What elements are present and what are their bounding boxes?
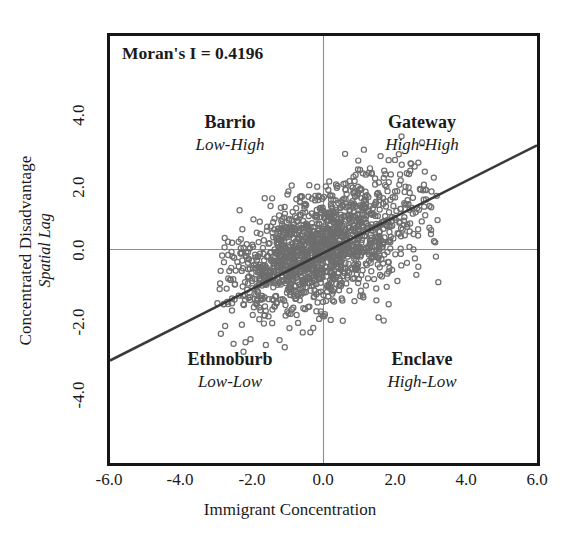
- quadrant-label-barrio: Barrio Low-High: [140, 111, 320, 155]
- quadrant-name-enclave: Enclave: [332, 348, 512, 371]
- quadrant-name-barrio: Barrio: [140, 111, 320, 134]
- y-tick-label-2: 2.0: [56, 177, 102, 197]
- scatter-canvas: [110, 36, 537, 463]
- x-tick-label-4: 4.0: [436, 470, 496, 490]
- quadrant-label-gateway: Gateway High-High: [332, 111, 512, 155]
- x-tick-label-6: 6.0: [507, 470, 567, 490]
- quadrant-type-barrio: Low-High: [140, 134, 320, 155]
- x-tick-label-neg4: -4.0: [150, 470, 210, 490]
- x-tick-label-2: 2.0: [365, 470, 425, 490]
- quadrant-label-enclave: Enclave High-Low: [332, 348, 512, 392]
- y-axis-title-sub: Spatial Lag: [37, 155, 56, 345]
- y-tick-label-4: 4.0: [56, 105, 102, 125]
- quadrant-name-ethnoburb: Ethnoburb: [140, 348, 320, 371]
- quadrant-name-gateway: Gateway: [332, 111, 512, 134]
- x-tick-label-0: 0.0: [293, 470, 353, 490]
- x-tick-label-neg6: -6.0: [79, 470, 139, 490]
- moran-i-annotation: Moran's I = 0.4196: [122, 43, 263, 64]
- x-tick-label-neg2: -2.0: [222, 470, 282, 490]
- y-axis-title-main: Concentrated Disadvantage: [17, 155, 37, 345]
- quadrant-label-ethnoburb: Ethnoburb Low-Low: [140, 348, 320, 392]
- y-tick-label-neg2: -2.0: [56, 312, 102, 332]
- quadrant-type-ethnoburb: Low-Low: [140, 371, 320, 392]
- x-axis-title: Immigrant Concentration: [0, 500, 580, 520]
- y-tick-label-0: 0.0: [56, 240, 102, 260]
- scatter-points: [215, 134, 441, 355]
- plot-area: Moran's I = 0.4196 Barrio Low-High Gatew…: [107, 33, 540, 466]
- quadrant-type-enclave: High-Low: [332, 371, 512, 392]
- moran-scatterplot-figure: Concentrated Disadvantage Spatial Lag 4.…: [0, 0, 580, 551]
- y-tick-label-neg4: -4.0: [56, 385, 102, 405]
- quadrant-type-gateway: High-High: [332, 134, 512, 155]
